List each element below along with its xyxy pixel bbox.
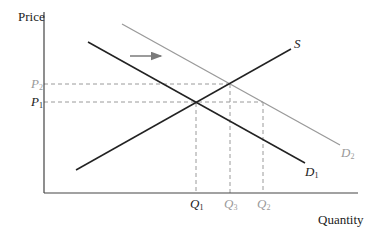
price-label-p1: P1 xyxy=(31,95,43,110)
supply-demand-diagram xyxy=(0,0,377,237)
curve-label-d2: D2 xyxy=(341,146,354,161)
price-label-p1-sub: 1 xyxy=(39,101,43,110)
curve-label-s-main: S xyxy=(294,36,301,51)
quantity-label-q3: Q3 xyxy=(224,197,237,212)
price-label-p2-main: P xyxy=(31,76,39,91)
quantity-label-q3-sub: 3 xyxy=(233,203,237,212)
price-label-p2-sub: 2 xyxy=(39,83,43,92)
guide-lines xyxy=(44,84,263,193)
curve-label-d2-sub: 2 xyxy=(350,152,354,161)
demand-curve-d2 xyxy=(122,24,340,145)
y-axis-label: Price xyxy=(18,10,45,23)
price-label-p1-main: P xyxy=(31,94,39,109)
quantity-label-q1-sub: 1 xyxy=(199,203,203,212)
price-label-p2: P2 xyxy=(31,77,43,92)
curve-label-d1: D1 xyxy=(305,165,318,180)
curve-label-d2-main: D xyxy=(341,145,350,160)
supply-curve-s xyxy=(76,49,291,170)
quantity-label-q3-main: Q xyxy=(224,196,233,211)
quantity-label-q2-main: Q xyxy=(257,196,266,211)
curve-label-s: S xyxy=(294,37,301,50)
x-axis-label: Quantity xyxy=(318,213,364,226)
quantity-label-q1-main: Q xyxy=(190,196,199,211)
curve-label-d1-main: D xyxy=(305,164,314,179)
quantity-label-q1: Q1 xyxy=(190,197,203,212)
quantity-label-q2-sub: 2 xyxy=(266,203,270,212)
curve-label-d1-sub: 1 xyxy=(314,171,318,180)
quantity-label-q2: Q2 xyxy=(257,197,270,212)
